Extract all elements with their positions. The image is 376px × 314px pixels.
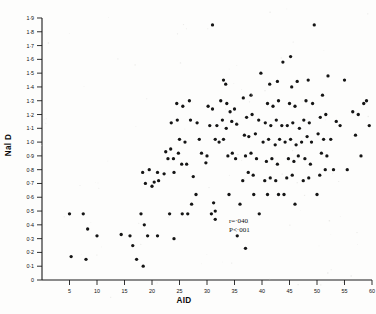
speckle (357, 244, 358, 245)
speckle (45, 123, 46, 124)
speckle (180, 62, 181, 63)
data-point (224, 83, 227, 86)
data-point (172, 171, 175, 174)
data-point (226, 154, 229, 157)
data-point (236, 234, 239, 237)
data-point (338, 124, 341, 127)
y-tick-label: 1·6 (27, 56, 35, 62)
data-point (228, 110, 231, 113)
y-tick-label: 1·2 (27, 112, 35, 118)
y-tick-label: 0·3 (27, 236, 35, 242)
data-point (247, 171, 250, 174)
data-point (293, 105, 296, 108)
data-point (177, 151, 180, 154)
y-tick-label: 0 (31, 277, 34, 283)
data-point (309, 163, 312, 166)
speckle (237, 294, 238, 295)
data-point (120, 233, 123, 236)
data-point (275, 118, 278, 121)
data-point (238, 203, 241, 206)
data-point (190, 203, 193, 206)
speckle (69, 33, 70, 34)
y-tick-label: 1·4 (27, 84, 35, 90)
speckle (342, 282, 344, 284)
y-tick-label: 0·8 (27, 167, 35, 173)
data-point (169, 147, 172, 150)
speckle (319, 246, 320, 247)
data-point (252, 193, 255, 196)
data-point (278, 138, 281, 141)
speckle (320, 284, 321, 285)
x-tick-label: 30 (204, 288, 210, 294)
speckle (108, 17, 109, 18)
data-point (178, 138, 181, 141)
speckle (168, 216, 169, 217)
data-point (297, 154, 300, 157)
x-axis-ticks: 51015202530354045505560 (68, 280, 375, 294)
data-point (180, 163, 183, 166)
data-point (308, 121, 311, 124)
data-point (217, 140, 220, 143)
speckle (192, 101, 193, 102)
speckle (329, 220, 331, 222)
data-point (259, 72, 262, 75)
speckle (233, 83, 234, 84)
data-point (95, 234, 98, 237)
speckle (302, 101, 303, 102)
data-point (156, 234, 159, 237)
speckle (323, 50, 324, 51)
data-point (219, 99, 222, 102)
data-point (195, 121, 198, 124)
speckle (251, 94, 252, 95)
data-point (183, 140, 186, 143)
data-point (181, 212, 184, 215)
x-tick-label: 10 (94, 288, 100, 294)
x-tick-label: 25 (177, 288, 183, 294)
speckle (269, 279, 270, 280)
data-point (153, 180, 156, 183)
data-point (332, 168, 335, 171)
data-point (245, 116, 248, 119)
paper-speckle-group (30, 8, 369, 297)
speckle (157, 282, 158, 283)
data-point (250, 113, 253, 116)
data-point (172, 237, 175, 240)
x-axis-title: AID (176, 296, 191, 305)
data-point (258, 212, 261, 215)
data-point (315, 193, 318, 196)
speckle (186, 28, 187, 29)
x-tick-label: 55 (342, 288, 348, 294)
data-point (290, 85, 293, 88)
data-point (227, 193, 230, 196)
speckle (135, 126, 136, 127)
data-point (172, 157, 175, 160)
data-point-group (68, 23, 371, 268)
data-point (303, 157, 306, 160)
y-tick-label: 1·7 (27, 43, 35, 49)
data-point (280, 124, 283, 127)
y-tick-label: 1·5 (27, 70, 35, 76)
data-point (162, 172, 165, 175)
data-point (194, 193, 197, 196)
data-point (268, 83, 271, 86)
data-point (221, 118, 224, 121)
data-point (335, 120, 338, 123)
speckle (238, 123, 239, 124)
data-point (233, 107, 236, 110)
data-point (234, 157, 237, 160)
data-point (230, 120, 233, 123)
x-tick-label: 35 (232, 288, 238, 294)
speckle (41, 145, 42, 146)
data-point (304, 99, 307, 102)
data-point (214, 138, 217, 141)
data-point (212, 201, 215, 204)
speckle (231, 263, 232, 264)
data-point (86, 227, 89, 230)
speckle (98, 188, 99, 189)
y-tick-label: 1·3 (27, 98, 35, 104)
speckle (117, 58, 118, 59)
data-point (318, 174, 321, 177)
speckle (79, 185, 80, 186)
data-point (222, 138, 225, 141)
y-axis-title: Nal D (4, 134, 13, 156)
